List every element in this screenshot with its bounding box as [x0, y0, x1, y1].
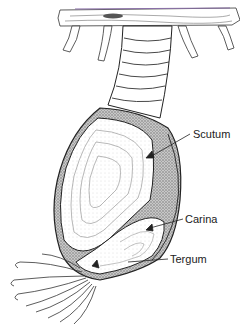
label-tergum: Tergum — [170, 253, 207, 265]
label-scutum: Scutum — [193, 128, 230, 140]
label-carina: Carina — [185, 213, 217, 225]
barnacle-illustration — [0, 0, 240, 330]
peduncle — [108, 26, 172, 118]
substrate — [58, 8, 240, 26]
capitulum — [54, 108, 181, 280]
